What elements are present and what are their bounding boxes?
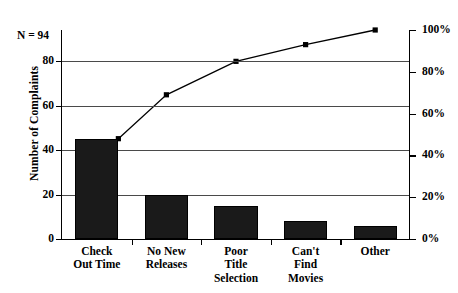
bar xyxy=(284,221,327,239)
y-axis-label-left: 60 xyxy=(14,100,54,112)
cumulative-point-marker xyxy=(164,92,169,97)
bar xyxy=(75,139,118,239)
cumulative-point-marker xyxy=(303,42,308,47)
y-axis-label-right: 80% xyxy=(422,66,458,78)
bar xyxy=(145,195,188,239)
gridline xyxy=(62,61,410,62)
y-axis-label-right: 60% xyxy=(422,108,458,120)
y-axis-label-left: 40 xyxy=(14,144,54,156)
y-axis-label-right: 0% xyxy=(422,233,458,245)
y-axis-label-left: 80 xyxy=(14,55,54,67)
y-axis-tick-right xyxy=(410,30,416,31)
x-axis-category-label: Other xyxy=(332,245,418,258)
y-axis-label-right: 100% xyxy=(422,24,458,36)
y-axis-label-left: 20 xyxy=(14,189,54,201)
cumulative-point-marker xyxy=(373,27,378,32)
bar xyxy=(354,226,397,239)
gridline xyxy=(62,106,410,107)
sample-size-annotation: N = 94 xyxy=(17,29,49,41)
y-axis-label-left: 0 xyxy=(14,233,54,245)
y-axis-title: Number of Complaints xyxy=(28,66,40,181)
left-axis-spine xyxy=(61,30,62,240)
bottom-axis-spine xyxy=(61,239,411,240)
y-axis-tick-right xyxy=(410,197,416,198)
y-axis-tick-right xyxy=(410,114,416,115)
bar xyxy=(214,206,257,239)
y-axis-tick-right xyxy=(410,155,416,156)
y-axis-label-right: 20% xyxy=(422,191,458,203)
y-axis-tick-right xyxy=(410,72,416,73)
plot-area: Number of Complaints 0204060800%20%40%60… xyxy=(62,30,410,239)
pareto-chart: N = 94 Number of Complaints 0204060800%2… xyxy=(0,0,458,293)
y-axis-label-right: 40% xyxy=(422,149,458,161)
right-axis-spine xyxy=(409,30,410,240)
